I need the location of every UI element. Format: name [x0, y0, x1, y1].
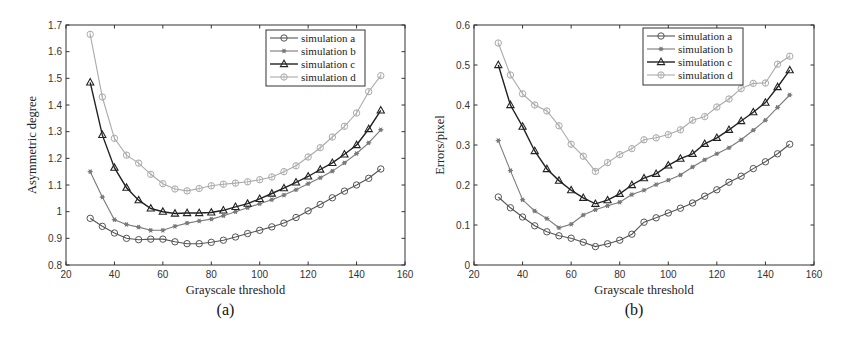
y-tick-label: 0.8	[48, 260, 62, 271]
y-tick-label: 0.3	[456, 140, 470, 151]
y-tick-label: 1.5	[48, 73, 62, 84]
x-tick-label: 20	[468, 269, 480, 280]
x-tick-label: 160	[397, 269, 414, 280]
y-tick-label: 1.2	[48, 153, 62, 164]
x-axis-label: Grayscale threshold	[186, 283, 286, 297]
chart-a-asymmetric-degree: 204060801001201401600.80.911.11.21.31.41…	[25, 20, 414, 320]
legend-label: simulation b	[301, 45, 356, 57]
legend-label: simulation c	[678, 56, 732, 68]
x-tick-label: 40	[109, 269, 121, 280]
y-tick-label: 0	[464, 260, 470, 271]
x-tick-label: 100	[251, 269, 268, 280]
legend-label: simulation a	[301, 32, 355, 44]
figure-canvas: 204060801001201401600.80.911.11.21.31.41…	[0, 0, 854, 339]
chart-b-errors-per-pixel: 2040608010012014016000.10.20.30.40.50.6s…	[433, 20, 823, 320]
y-tick-label: 0.1	[456, 220, 470, 231]
x-tick-label: 160	[806, 269, 823, 280]
y-tick-label: 0.9	[48, 233, 62, 244]
y-tick-label: 0.6	[456, 20, 470, 31]
y-tick-label: 0.2	[456, 180, 470, 191]
x-tick-label: 60	[566, 269, 578, 280]
y-tick-label: 0.5	[456, 60, 470, 71]
x-axis-label: Grayscale threshold	[594, 283, 694, 297]
x-tick-label: 100	[660, 269, 677, 280]
y-tick-label: 1	[56, 206, 62, 217]
x-tick-label: 40	[517, 269, 529, 280]
x-tick-label: 140	[348, 269, 365, 280]
y-tick-label: 0.4	[456, 100, 470, 111]
x-tick-label: 140	[757, 269, 774, 280]
legend-label: simulation a	[678, 30, 732, 42]
x-tick-label: 120	[709, 269, 726, 280]
legend-label: simulation d	[678, 69, 733, 81]
y-tick-label: 1.4	[48, 100, 62, 111]
legend: simulation asimulation bsimulation csimu…	[266, 30, 365, 86]
y-axis-label: Errors/pixel	[433, 115, 447, 175]
y-tick-label: 1.1	[48, 180, 62, 191]
x-tick-label: 60	[157, 269, 169, 280]
x-tick-label: 80	[614, 269, 626, 280]
y-axis-label: Asymmetric degree	[25, 95, 39, 194]
figure-caption: (b)	[625, 301, 644, 319]
x-tick-label: 80	[206, 269, 218, 280]
figure-caption: (a)	[217, 301, 235, 319]
y-tick-label: 1.7	[48, 20, 62, 31]
legend-label: simulation c	[301, 58, 355, 70]
x-tick-label: 120	[300, 269, 317, 280]
y-tick-label: 1.6	[48, 46, 62, 57]
x-tick-label: 20	[60, 269, 72, 280]
legend-label: simulation d	[301, 71, 356, 83]
legend-label: simulation b	[678, 43, 733, 55]
legend: simulation asimulation bsimulation csimu…	[643, 28, 743, 85]
y-tick-label: 1.3	[48, 126, 62, 137]
